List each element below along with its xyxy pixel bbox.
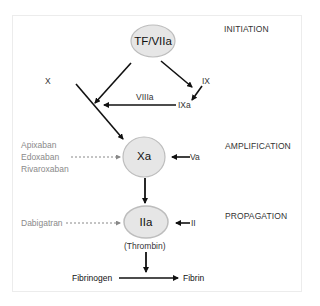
factor-x-label: X xyxy=(45,77,51,86)
factor-va-label: Va xyxy=(190,153,200,162)
drug-edoxaban-label: Edoxaban xyxy=(21,153,59,162)
arrow-ix-to-ixa xyxy=(192,86,202,100)
drug-rivaroxaban-label: Rivaroxaban xyxy=(21,165,69,174)
factor-viiia-label: VIIIa xyxy=(136,93,153,102)
fibrin-label: Fibrin xyxy=(183,274,204,283)
factor-ix-label: IX xyxy=(202,77,210,86)
stage-initiation-label: INITIATION xyxy=(224,25,269,34)
stage-amplification-label: AMPLIFICATION xyxy=(225,142,291,151)
drug-apixaban-label: Apixaban xyxy=(21,141,56,150)
thrombin-caption: (Thrombin) xyxy=(124,242,166,251)
drug-dabigatran-label: Dabigatran xyxy=(21,219,63,228)
factor-ii-label: II xyxy=(191,219,196,228)
xa-label: Xa xyxy=(137,151,151,163)
fibrinogen-label: Fibrinogen xyxy=(72,274,112,283)
tf-viia-label: TF/VIIa xyxy=(134,36,172,48)
factor-ixa-label: IXa xyxy=(178,101,191,110)
iia-label: IIa xyxy=(140,217,153,229)
arrow-tfviia-to-ix xyxy=(161,61,192,87)
arrow-tfviia-to-x xyxy=(95,63,131,103)
stage-propagation-label: PROPAGATION xyxy=(225,212,287,221)
arrow-x-to-xa xyxy=(76,84,123,139)
